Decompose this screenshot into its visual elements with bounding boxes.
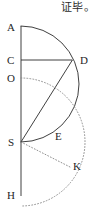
line-s-to-d	[21, 60, 72, 142]
vertex-label-a: A	[7, 22, 15, 33]
vertex-label-k: K	[73, 161, 81, 172]
vertex-label-s: S	[8, 137, 14, 148]
arc-a-d-s	[21, 26, 79, 142]
vertex-label-h: H	[7, 190, 15, 201]
arc-o-k-h-dotted	[21, 78, 85, 206]
line-s-to-k-dotted	[21, 142, 70, 167]
vertex-label-c: C	[7, 55, 14, 66]
vertex-label-o: O	[7, 73, 15, 84]
geometry-figure-root: 证毕。 A C O S H D E K	[0, 0, 98, 207]
vertex-label-e: E	[55, 131, 62, 142]
vertex-label-d: D	[80, 55, 88, 66]
